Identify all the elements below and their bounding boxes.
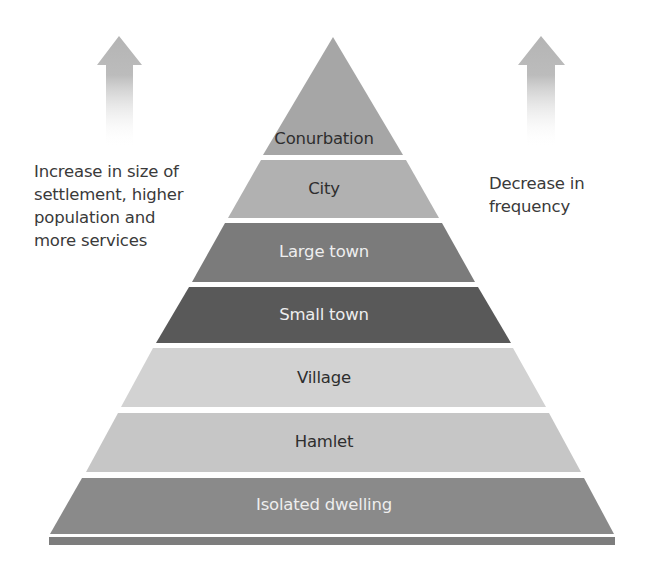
level-label-city: City bbox=[0, 179, 648, 199]
level-label-village: Village bbox=[0, 368, 648, 388]
level-label-conurbation: Conurbation bbox=[0, 129, 648, 149]
size-increase-caption: Increase in size of settlement, higher p… bbox=[34, 160, 234, 252]
level-label-small-town: Small town bbox=[0, 305, 648, 325]
caption-line: population and bbox=[34, 206, 234, 229]
level-label-large-town: Large town bbox=[0, 242, 648, 262]
level-label-isolated-dwelling: Isolated dwelling bbox=[0, 495, 648, 515]
pyramid-graphic bbox=[0, 0, 648, 568]
settlement-hierarchy-diagram: Increase in size of settlement, higher p… bbox=[0, 0, 648, 568]
level-label-hamlet: Hamlet bbox=[0, 432, 648, 452]
pyramid-base-strip bbox=[49, 537, 615, 545]
